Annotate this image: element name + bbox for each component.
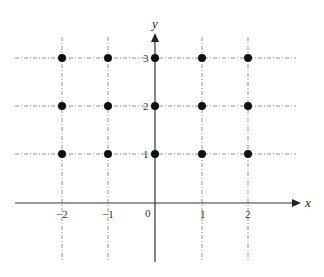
point <box>58 150 66 158</box>
point <box>198 54 206 62</box>
point <box>244 54 252 62</box>
point <box>151 54 159 62</box>
tick-x-1: 1 <box>200 208 206 220</box>
x-axis-label: x <box>304 195 311 210</box>
y-axis-arrow-icon <box>151 33 159 42</box>
tick-x-neg2: −2 <box>56 208 68 220</box>
point <box>104 54 112 62</box>
point <box>198 102 206 110</box>
tick-y-2: 2 <box>143 100 149 112</box>
point <box>58 54 66 62</box>
x-axis-arrow-icon <box>292 199 301 207</box>
lattice-diagram: x y −2 −1 0 1 2 1 2 3 <box>0 0 324 277</box>
point <box>198 150 206 158</box>
point <box>244 150 252 158</box>
point <box>151 150 159 158</box>
tick-y-1: 1 <box>143 148 149 160</box>
point <box>58 102 66 110</box>
point <box>244 102 252 110</box>
point <box>104 102 112 110</box>
tick-x-2: 2 <box>245 208 251 220</box>
tick-x-neg1: −1 <box>102 208 114 220</box>
tick-y-3: 3 <box>143 52 149 64</box>
point <box>151 102 159 110</box>
diagram-canvas: x y −2 −1 0 1 2 1 2 3 <box>0 0 324 277</box>
tick-x-0: 0 <box>145 207 151 219</box>
y-axis-label: y <box>150 16 158 31</box>
point <box>104 150 112 158</box>
